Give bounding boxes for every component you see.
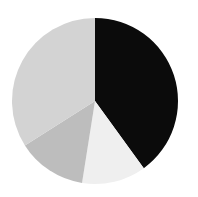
pie-slices	[12, 18, 178, 184]
pie-chart	[0, 0, 198, 197]
